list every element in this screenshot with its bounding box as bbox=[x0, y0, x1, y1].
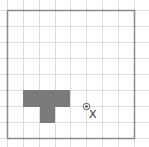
t-shape-top-bar bbox=[23, 90, 70, 107]
grid-diagram: X bbox=[0, 0, 149, 147]
t-shape bbox=[23, 90, 70, 123]
grid-lines bbox=[0, 0, 149, 147]
marker-label: X bbox=[89, 108, 97, 121]
t-shape-stem bbox=[40, 106, 55, 123]
